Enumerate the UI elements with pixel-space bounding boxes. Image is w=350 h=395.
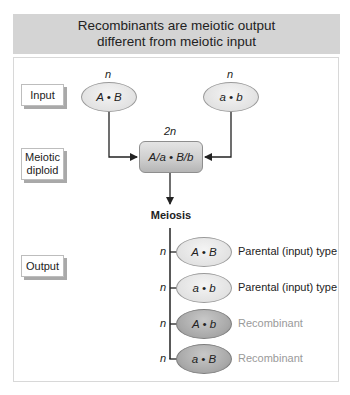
input-2-ploidy: n — [227, 68, 233, 80]
input-1-ploidy: n — [105, 68, 111, 80]
output-2-ellipse: a • b — [176, 273, 232, 303]
meiotic-diploid-label: Meiotic diploid — [21, 148, 64, 180]
output-2-type: Parental (input) type — [238, 281, 337, 293]
output-3-ellipse: A • b — [176, 309, 232, 339]
meiotic-diploid-label-line-1: Meiotic — [25, 151, 60, 164]
output-2-ploidy: n — [160, 281, 166, 293]
output-1-type: Parental (input) type — [238, 245, 337, 257]
input-2-ellipse: a • b — [203, 82, 259, 112]
diploid-ploidy: 2n — [164, 125, 176, 137]
output-3-ploidy: n — [160, 317, 166, 329]
output-4-ploidy: n — [160, 352, 166, 364]
diploid-box: A/a • B/b — [139, 141, 203, 173]
input-1-ellipse: A • B — [81, 82, 137, 112]
meiosis-label: Meiosis — [148, 209, 194, 221]
output-4-ellipse: a • B — [176, 344, 232, 374]
output-4-type: Recombinant — [238, 352, 303, 364]
output-label: Output — [21, 255, 64, 277]
meiotic-diploid-label-line-2: diploid — [27, 164, 59, 177]
output-1-ploidy: n — [160, 245, 166, 257]
connector-lines — [0, 0, 350, 395]
output-1-ellipse: A • B — [176, 237, 232, 267]
output-3-type: Recombinant — [238, 317, 303, 329]
input-label: Input — [21, 84, 64, 106]
